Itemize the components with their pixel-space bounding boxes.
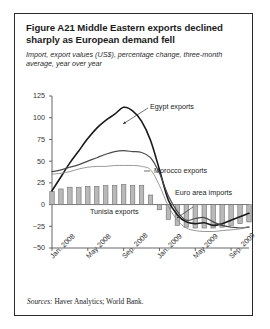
bar-euro-area-imports — [121, 185, 125, 205]
annotation-morocco-exports: Morocco exports — [154, 166, 207, 175]
bar-euro-area-imports — [95, 186, 99, 204]
bar-euro-area-imports — [104, 185, 108, 204]
y-axis-tick-label: 25 — [21, 178, 45, 187]
bar-euro-area-imports — [77, 187, 81, 204]
y-axis-tick-label: 75 — [21, 135, 45, 144]
bar-euro-area-imports — [148, 195, 152, 205]
bar-euro-area-imports — [229, 205, 233, 226]
y-axis-tick-label: −50 — [21, 243, 45, 252]
figure-source: Sources: Haver Analytics; World Bank. — [27, 297, 144, 306]
annotation-euro-area-imports: Euro area imports — [175, 188, 232, 197]
bar-euro-area-imports — [50, 192, 54, 205]
bar-euro-area-imports — [130, 185, 134, 204]
source-label: Sources: — [27, 297, 53, 306]
y-axis-tick-label: 50 — [21, 157, 45, 166]
y-axis-tick-label: 100 — [21, 113, 45, 122]
bar-euro-area-imports — [157, 205, 161, 210]
source-text: Haver Analytics; World Bank. — [53, 297, 144, 306]
bar-euro-area-imports — [68, 187, 72, 204]
y-axis-tick-label: −25 — [21, 222, 45, 231]
chart-plot-area: 1251007550250−25−50Jan. 2008May 2008Sep.… — [15, 14, 254, 317]
bar-euro-area-imports — [202, 205, 206, 228]
figure-panel: Figure A21 Middle Eastern exports declin… — [14, 13, 253, 316]
line-egypt-exports — [52, 107, 249, 225]
bar-euro-area-imports — [193, 205, 197, 228]
bar-euro-area-imports — [139, 185, 143, 204]
chart-svg — [15, 14, 254, 317]
annotation-tunisia-exports: Tunisia exports — [90, 207, 138, 216]
bar-euro-area-imports — [86, 186, 90, 204]
annotation-egypt-exports: Egypt exports — [150, 102, 194, 111]
bar-euro-area-imports — [59, 189, 63, 205]
bar-euro-area-imports — [112, 185, 116, 204]
y-axis-tick-label: 0 — [21, 200, 45, 209]
y-axis-tick-label: 125 — [21, 91, 45, 100]
bar-euro-area-imports — [238, 205, 242, 224]
leader-egypt — [123, 108, 148, 124]
bar-euro-area-imports — [184, 205, 188, 228]
